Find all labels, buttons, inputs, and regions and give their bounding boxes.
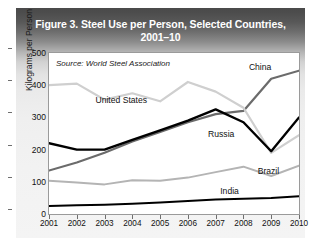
- x-tick-mark: [49, 215, 50, 219]
- y-tick-label: 500: [12, 48, 46, 58]
- figure-title: Figure 3. Steel Use per Person, Selected…: [16, 18, 305, 43]
- series-line-russia: [49, 109, 299, 151]
- series-label-brazil: Brazil: [258, 166, 280, 176]
- chart-plot-area: Kilograms per Person 0100200300400500 20…: [48, 52, 300, 215]
- figure-container: Figure 3. Steel Use per Person, Selected…: [16, 8, 305, 238]
- series-label-india: India: [220, 186, 239, 196]
- chart-series-lines: [49, 53, 299, 214]
- y-tick-mark: [8, 80, 12, 81]
- y-tick-label: 0: [12, 209, 46, 219]
- series-label-united-states: United States: [95, 95, 147, 105]
- y-tick-label: 400: [12, 80, 46, 90]
- x-tick-label: 2010: [279, 219, 319, 228]
- x-tick-mark: [132, 215, 133, 219]
- y-tick-label: 100: [12, 177, 46, 187]
- series-label-china: China: [249, 62, 271, 72]
- y-tick-mark: [8, 48, 12, 49]
- x-tick-mark: [105, 215, 106, 219]
- series-line-india: [49, 196, 299, 206]
- y-tick-mark: [8, 112, 12, 113]
- figure-title-line-2: 2001–10: [16, 31, 305, 44]
- x-tick-mark: [77, 215, 78, 219]
- x-tick-mark: [271, 215, 272, 219]
- y-tick-mark: [8, 209, 12, 210]
- series-line-china: [49, 71, 299, 171]
- x-tick-mark: [299, 215, 300, 219]
- chart-canvas: Source: World Steel Association ChinaUni…: [48, 52, 300, 215]
- figure-title-line-1: Figure 3. Steel Use per Person, Selected…: [16, 18, 305, 31]
- x-tick-mark: [160, 215, 161, 219]
- y-tick-label: 300: [12, 112, 46, 122]
- x-tick-mark: [243, 215, 244, 219]
- x-tick-mark: [188, 215, 189, 219]
- series-label-russia: Russia: [208, 129, 234, 139]
- y-tick-mark: [8, 177, 12, 178]
- y-tick-label: 200: [12, 145, 46, 155]
- x-tick-mark: [216, 215, 217, 219]
- y-tick-mark: [8, 145, 12, 146]
